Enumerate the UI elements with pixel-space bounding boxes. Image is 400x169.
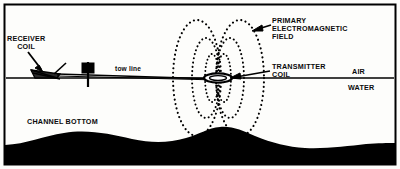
channel-bottom-label: CHANNEL BOTTOM (27, 118, 98, 126)
transmitter-coil-label: TRANSMITTER COIL (272, 63, 326, 79)
transmitter-coil (204, 73, 232, 82)
tow-line-label: tow line (115, 65, 141, 72)
figure-canvas: RECEIVER COIL PRIMARY ELECTROMAGNETIC FI… (0, 0, 400, 169)
air-label: AIR (352, 68, 365, 76)
receiver-coil-label: RECEIVER COIL (7, 35, 45, 51)
primary-electromagnetic-field-label: PRIMARY ELECTROMAGNETIC FIELD (272, 17, 348, 40)
water-label: WATER (348, 84, 374, 92)
